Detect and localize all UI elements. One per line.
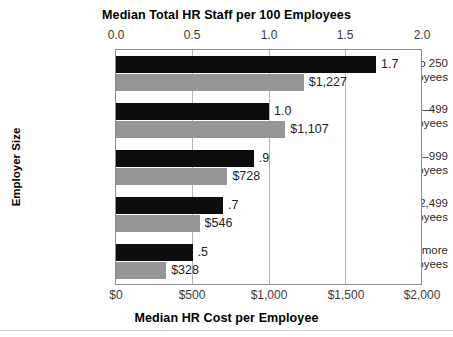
y-axis-title: Employer Size [10,97,22,237]
bar-cost-2 [116,168,227,185]
bar-value-cost-2: $728 [232,168,260,185]
bar-staff-3 [116,197,223,214]
chart-figure: Median Total HR Staff per 100 Employees … [0,0,453,337]
bottom-tick-0: $0 [99,288,133,302]
bar-value-cost-4: $328 [171,262,199,279]
footer-rule [0,330,453,331]
bar-cost-1 [116,121,285,138]
plot-area: 1.7 $1,227 1.0 $1,107 .9 $728 .7 $546 .5… [115,49,422,285]
bar-value-staff-0: 1.7 [381,56,398,73]
bar-staff-4 [116,244,193,261]
bar-staff-0 [116,56,376,73]
bar-staff-2 [116,150,254,167]
bar-cost-3 [116,215,200,232]
bar-value-cost-1: $1,107 [290,121,328,138]
bar-value-cost-3: $546 [205,215,233,232]
bar-value-staff-2: .9 [259,150,269,167]
top-tick-2: 1.0 [253,28,285,42]
bar-value-staff-1: 1.0 [274,103,291,120]
bar-value-staff-3: .7 [228,197,238,214]
top-tick-3: 1.5 [329,28,361,42]
bottom-tick-2: $1,000 [240,288,298,302]
bottom-tick-4: $2,000 [393,288,451,302]
bottom-tick-1: $500 [168,288,216,302]
top-tick-4: 2.0 [406,28,438,42]
bar-value-staff-4: .5 [198,244,208,261]
chart-title-bottom: Median HR Cost per Employee [0,311,453,325]
bottom-tick-3: $1,500 [317,288,375,302]
top-tick-1: 0.5 [176,28,208,42]
chart-title-top: Median Total HR Staff per 100 Employees [0,8,453,22]
bar-cost-4 [116,262,166,279]
top-tick-0: 0.0 [100,28,132,42]
bar-cost-0 [116,74,304,91]
bar-value-cost-0: $1,227 [309,74,347,91]
bar-staff-1 [116,103,269,120]
